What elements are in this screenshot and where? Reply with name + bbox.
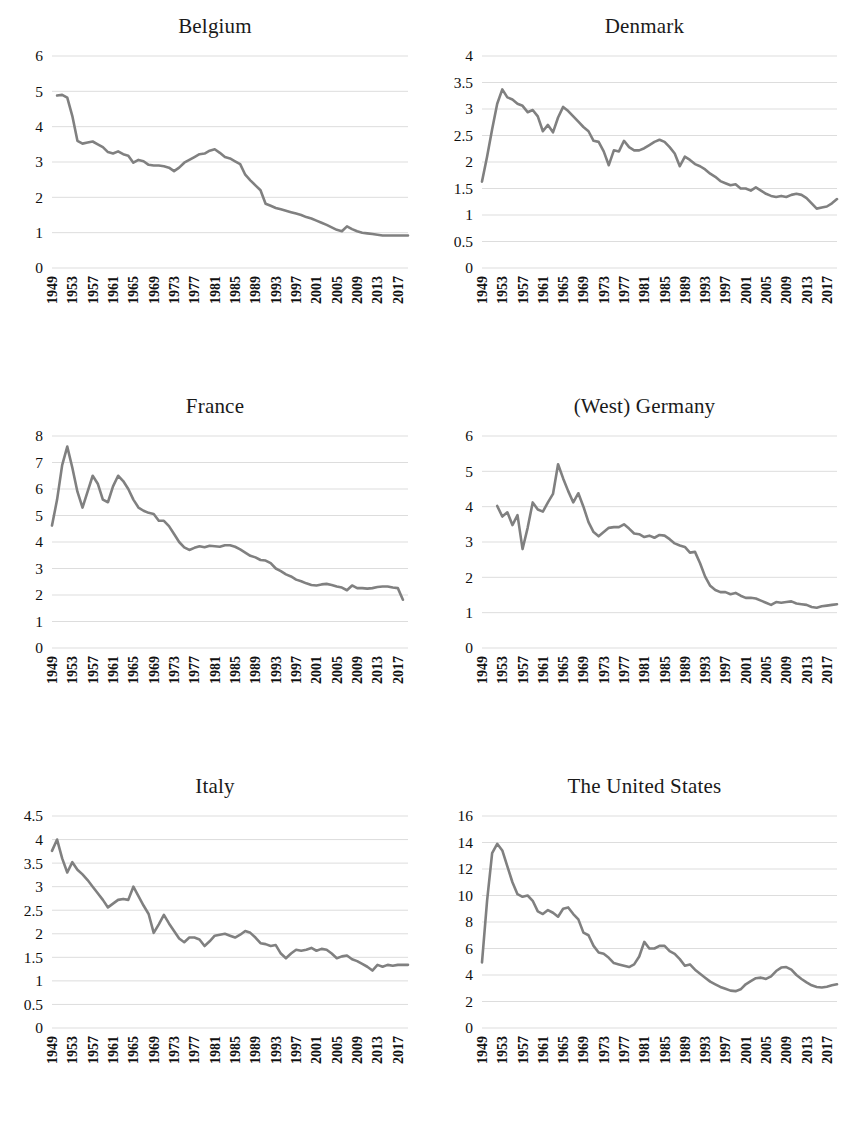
series-line: [497, 464, 837, 607]
x-axis-tick-label: 1997: [718, 276, 733, 304]
x-axis-tick-label: 1993: [269, 276, 284, 304]
x-axis-tick-label: 1981: [637, 656, 652, 684]
y-axis-tick-label: 2.5: [24, 902, 44, 919]
y-axis-tick-label: 4: [465, 498, 473, 515]
y-axis-tick-label: 0: [35, 639, 43, 656]
y-axis-tick-label: 4: [35, 831, 43, 848]
plot-area-united-states: 0246810121416194919531957196119651969197…: [430, 808, 859, 1108]
y-axis-tick-label: 14: [458, 834, 474, 851]
y-axis-tick-label: 6: [35, 47, 43, 64]
y-axis-tick-label: 6: [35, 480, 43, 497]
x-axis-tick-label: 1973: [597, 656, 612, 684]
y-axis-tick-label: 4: [35, 118, 43, 135]
plot-svg-west-germany: 0123456194919531957196119651969197319771…: [430, 428, 859, 728]
x-axis-tick-label: 2009: [779, 276, 794, 304]
x-axis-tick-label: 1993: [698, 276, 713, 304]
x-axis-tick-label: 1969: [147, 1036, 162, 1064]
x-axis-tick-label: 1977: [617, 276, 632, 304]
chart-panel-belgium: Belgium 01234561949195319571961196519691…: [0, 0, 430, 380]
y-axis-tick-label: 7: [35, 454, 43, 471]
y-axis-tick-label: 4: [35, 533, 43, 550]
plot-area-denmark: 00.511.522.533.5419491953195719611965196…: [430, 48, 859, 348]
chart-panel-united-states: The United States 0246810121416194919531…: [430, 760, 859, 1143]
series-line: [57, 95, 408, 236]
y-axis-tick-label: 5: [35, 507, 43, 524]
chart-title-denmark: Denmark: [430, 14, 859, 39]
x-axis-tick-label: 1997: [718, 1036, 733, 1064]
plot-area-belgium: 0123456194919531957196119651969197319771…: [0, 48, 430, 348]
x-axis-tick-label: 1981: [208, 276, 223, 304]
y-axis-tick-label: 3: [465, 533, 473, 550]
x-axis-tick-label: 2017: [391, 1036, 406, 1064]
x-axis-tick-label: 1965: [556, 656, 571, 684]
y-axis-tick-label: 16: [458, 807, 474, 824]
chart-title-italy: Italy: [0, 774, 430, 799]
x-axis-tick-label: 1973: [167, 1036, 182, 1064]
y-axis-tick-label: 3: [465, 100, 473, 117]
x-axis-tick-label: 1961: [536, 276, 551, 304]
y-axis-tick-label: 0: [35, 259, 43, 276]
y-axis-tick-label: 2: [465, 993, 473, 1010]
series-line: [52, 447, 403, 600]
y-axis-tick-label: 1: [35, 224, 43, 241]
x-axis-tick-label: 1965: [556, 276, 571, 304]
x-axis-tick-label: 1989: [248, 656, 263, 684]
x-axis-tick-label: 1981: [637, 1036, 652, 1064]
x-axis-tick-label: 1949: [475, 1036, 490, 1064]
x-axis-tick-label: 2013: [370, 1036, 385, 1064]
x-axis-tick-label: 1989: [248, 276, 263, 304]
x-axis-tick-label: 2009: [350, 656, 365, 684]
series-line: [482, 844, 837, 991]
x-axis-tick-label: 2005: [759, 656, 774, 684]
y-axis-tick-label: 1.5: [454, 180, 474, 197]
x-axis-tick-label: 1957: [516, 656, 531, 684]
x-axis-tick-label: 1953: [495, 276, 510, 304]
y-axis-tick-label: 10: [458, 887, 474, 904]
x-axis-tick-label: 1989: [678, 656, 693, 684]
x-axis-tick-label: 1989: [678, 1036, 693, 1064]
chart-title-west-germany: (West) Germany: [430, 394, 859, 419]
x-axis-tick-label: 2009: [350, 276, 365, 304]
x-axis-tick-label: 1977: [617, 656, 632, 684]
x-axis-tick-label: 1981: [637, 276, 652, 304]
x-axis-tick-label: 2005: [759, 276, 774, 304]
chart-title-united-states: The United States: [430, 774, 859, 799]
y-axis-tick-label: 2: [465, 153, 473, 170]
x-axis-tick-label: 1965: [126, 1036, 141, 1064]
chart-panel-italy: Italy 00.511.522.533.544.519491953195719…: [0, 760, 430, 1143]
x-axis-tick-label: 1949: [475, 656, 490, 684]
y-axis-tick-label: 2: [35, 189, 43, 206]
x-axis-tick-label: 2001: [739, 276, 754, 304]
y-axis-tick-label: 4: [465, 47, 473, 64]
plot-svg-denmark: 00.511.522.533.5419491953195719611965196…: [430, 48, 859, 348]
x-axis-tick-label: 1985: [228, 656, 243, 684]
x-axis-tick-label: 1965: [126, 656, 141, 684]
x-axis-tick-label: 1949: [475, 276, 490, 304]
x-axis-tick-label: 2009: [779, 1036, 794, 1064]
x-axis-tick-label: 2005: [330, 656, 345, 684]
chart-title-france: France: [0, 394, 430, 419]
x-axis-tick-label: 2017: [820, 276, 835, 304]
x-axis-tick-label: 1965: [126, 276, 141, 304]
x-axis-tick-label: 1969: [576, 656, 591, 684]
plot-svg-united-states: 0246810121416194919531957196119651969197…: [430, 808, 859, 1108]
y-axis-tick-label: 1: [35, 972, 43, 989]
plot-area-france: 0123456781949195319571961196519691973197…: [0, 428, 430, 728]
x-axis-tick-label: 2001: [309, 1036, 324, 1064]
x-axis-tick-label: 1961: [106, 656, 121, 684]
chart-panel-france: France 012345678194919531957196119651969…: [0, 380, 430, 760]
x-axis-tick-label: 1989: [248, 1036, 263, 1064]
y-axis-tick-label: 1: [465, 604, 473, 621]
y-axis-tick-label: 0: [465, 259, 473, 276]
plot-area-italy: 00.511.522.533.544.519491953195719611965…: [0, 808, 430, 1108]
x-axis-tick-label: 1953: [495, 656, 510, 684]
x-axis-tick-label: 1985: [658, 276, 673, 304]
x-axis-tick-label: 1969: [576, 1036, 591, 1064]
x-axis-tick-label: 1957: [516, 1036, 531, 1064]
y-axis-tick-label: 3.5: [24, 855, 44, 872]
x-axis-tick-label: 1961: [106, 276, 121, 304]
y-axis-tick-label: 12: [458, 860, 474, 877]
y-axis-tick-label: 2.5: [454, 127, 474, 144]
y-axis-tick-label: 0: [465, 639, 473, 656]
x-axis-tick-label: 2005: [330, 276, 345, 304]
